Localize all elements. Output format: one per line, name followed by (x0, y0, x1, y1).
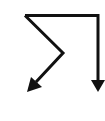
split-route-arrows-icon (0, 0, 105, 121)
down-arrowhead-icon (91, 80, 105, 92)
zigzag-line (25, 16, 63, 83)
icon-canvas (0, 0, 105, 121)
